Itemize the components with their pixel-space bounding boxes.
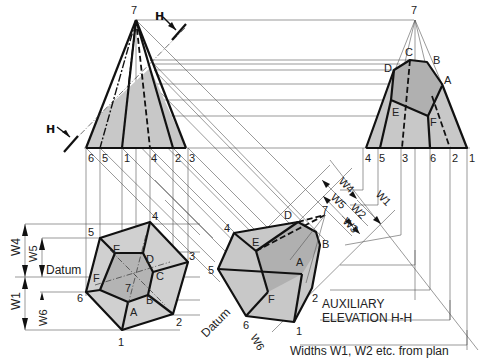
aux-point-label: 5	[208, 264, 214, 276]
auxiliary-elevation: W4 W5 W1 W2 W3 W6 Datum 4 5 6 1 2 D E A …	[198, 175, 412, 352]
aux-point-label: F	[268, 293, 275, 305]
end-section-label: F	[430, 116, 437, 128]
end-point-label: 1	[469, 152, 475, 164]
aux-datum-label: Datum	[198, 305, 233, 340]
plan-inner-label: F	[93, 272, 100, 284]
plan-inner-label: C	[156, 270, 164, 282]
front-point-label: 1	[124, 152, 130, 164]
aux-point-label: D	[284, 209, 292, 221]
plan-point-label: 3	[189, 250, 195, 262]
front-point-label: 4	[151, 152, 157, 164]
drawing-canvas: H H 7 6 5 1 4 2 3 7 C B D A E F 4 5 3 6 …	[0, 0, 482, 361]
end-apex-label: 7	[411, 4, 417, 16]
end-point-label: 5	[379, 152, 385, 164]
end-point-label: 6	[430, 152, 436, 164]
end-section-label: A	[444, 74, 452, 86]
aux-point-label: A	[296, 256, 304, 268]
plan-point-label: 6	[77, 292, 83, 304]
aux-point-label: 4	[224, 222, 230, 234]
aux-dim-w6: W6	[248, 332, 267, 352]
plan-point-label: 1	[118, 336, 124, 348]
front-point-label: 2	[175, 152, 181, 164]
dim-w1: W1	[9, 292, 23, 310]
front-point-label: 5	[102, 152, 108, 164]
aux-point-label: 1	[296, 325, 302, 337]
aux-title-line1: AUXILIARY	[322, 297, 384, 311]
aux-title-line2: ELEVATION H-H	[322, 311, 412, 325]
aux-point-label: 2	[312, 292, 318, 304]
dim-w5: W5	[27, 246, 39, 263]
plan-inner-label: D	[146, 253, 154, 265]
plan-inner-label: A	[130, 306, 138, 318]
plan-center-label: 7	[125, 282, 131, 294]
end-section-label: C	[405, 46, 413, 58]
front-apex-label: 7	[131, 4, 137, 16]
end-point-label: 4	[365, 152, 371, 164]
dim-w4: W4	[9, 238, 23, 256]
end-section-label: E	[392, 106, 399, 118]
end-point-label: 3	[402, 152, 408, 164]
plan-inner-label: E	[113, 243, 120, 255]
plan-point-label: 2	[176, 316, 182, 328]
aux-point-label: 6	[243, 319, 249, 331]
plan-point-label: 4	[152, 210, 158, 222]
aux-apex-label: 7	[322, 204, 328, 216]
dim-w6: W6	[37, 310, 49, 327]
end-section-label: B	[433, 54, 440, 66]
cutting-plane-label-bottom: H	[46, 123, 55, 136]
aux-point-label: E	[252, 236, 259, 248]
aux-point-label: B	[322, 238, 329, 250]
end-section-label: D	[384, 62, 392, 74]
projection-drawing: H H 7 6 5 1 4 2 3 7 C B D A E F 4 5 3 6 …	[0, 0, 482, 361]
caption: Widths W1, W2 etc. from plan	[290, 344, 449, 358]
plan-datum-label: Datum	[46, 263, 81, 277]
aux-dim-w5: W5	[329, 191, 349, 211]
plan-inner-label: B	[146, 294, 153, 306]
front-point-label: 3	[189, 152, 195, 164]
cutting-plane-label-top: H	[155, 10, 164, 23]
aux-dim-w4: W4	[337, 175, 357, 195]
plan-view: W4 W5 W1 W6 Datum 1 2 3 4 5 6 A B C D E …	[9, 210, 195, 348]
plan-point-label: 5	[88, 226, 94, 238]
end-point-label: 2	[452, 152, 458, 164]
front-point-label: 6	[88, 152, 94, 164]
